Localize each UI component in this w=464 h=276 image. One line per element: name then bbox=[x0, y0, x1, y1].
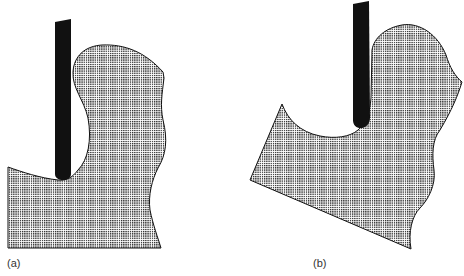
panel-label-a: (a) bbox=[7, 257, 20, 269]
workpiece-a bbox=[8, 45, 166, 248]
panel-a bbox=[8, 19, 166, 248]
figure: (a) (b) bbox=[0, 0, 464, 276]
tool-a bbox=[55, 19, 71, 180]
panel-b bbox=[250, 1, 462, 249]
diagram-canvas bbox=[0, 0, 464, 276]
tool-b bbox=[353, 1, 370, 128]
panel-label-b: (b) bbox=[313, 257, 326, 269]
